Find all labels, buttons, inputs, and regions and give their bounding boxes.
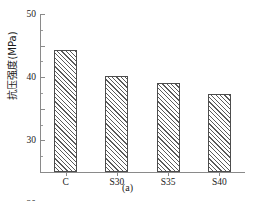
x-tick-mark [117,173,118,176]
figure-caption: (a) [0,182,255,193]
y-minor-tick-mark [41,93,43,94]
y-tick-mark: 40 [41,46,45,47]
plot-area: 01020304050 CS30S35S40 [40,14,245,172]
y-tick-mark: 20 [41,109,45,110]
compressive-strength-bar-chart: 抗压强度(MPa) 01020304050 CS30S35S40 (a) [0,0,255,201]
bar [105,76,128,172]
y-tick-mark: 0 [41,172,45,173]
y-tick-mark: 10 [41,140,45,141]
y-tick-label: 30 [27,135,37,145]
y-axis-label: 抗压强度(MPa) [4,11,19,121]
x-tick-mark [66,173,67,176]
y-tick-mark: 50 [41,14,45,15]
y-minor-tick-mark [41,156,43,157]
y-tick-label: 20 [27,199,37,201]
bar [208,94,231,172]
bar [157,83,180,172]
y-tick-label: 40 [27,72,37,82]
y-minor-tick-mark [41,61,43,62]
y-tick-label: 50 [27,9,37,19]
y-tick-mark: 30 [41,77,45,78]
x-tick-mark [168,173,169,176]
y-minor-tick-mark [41,30,43,31]
bar [54,50,77,172]
x-tick-mark [219,173,220,176]
x-axis-line [40,172,245,173]
y-minor-tick-mark [41,125,43,126]
